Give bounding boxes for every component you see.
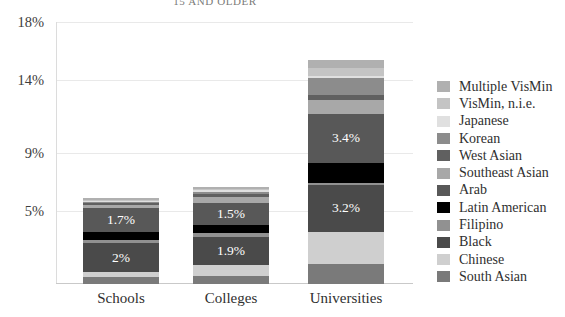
bar-segment[interactable]: [193, 276, 269, 284]
legend-item-label: Chinese: [459, 253, 504, 267]
legend-item-label: West Asian: [459, 149, 522, 163]
bar-segment[interactable]: [193, 190, 269, 191]
bar-segment[interactable]: 3.4%: [308, 114, 384, 163]
legend-item[interactable]: Black: [437, 234, 565, 251]
legend-swatch-icon: [437, 133, 450, 144]
bar-segment[interactable]: [308, 264, 384, 284]
legend-item[interactable]: Korean: [437, 130, 565, 147]
bar-segment[interactable]: [83, 277, 159, 284]
legend-swatch-icon: [437, 202, 450, 213]
legend-item-label: Multiple VisMin: [459, 80, 552, 94]
bar-segment[interactable]: [308, 95, 384, 100]
bar-segment[interactable]: 3.2%: [308, 185, 384, 232]
legend-swatch-icon: [437, 150, 450, 161]
bar-segment[interactable]: [193, 265, 269, 276]
legend-swatch-icon: [437, 168, 450, 179]
bar-segment[interactable]: [83, 232, 159, 240]
legend-item[interactable]: Latin American: [437, 199, 565, 216]
x-axis-tick-label: Colleges: [205, 290, 258, 307]
legend-item[interactable]: Arab: [437, 182, 565, 199]
legend-swatch-icon: [437, 98, 450, 109]
bar-segment[interactable]: 1.7%: [83, 208, 159, 233]
bar-segment[interactable]: [83, 200, 159, 201]
bar-segment[interactable]: [83, 205, 159, 208]
bar-segment[interactable]: [193, 197, 269, 204]
bar-segment[interactable]: [193, 189, 269, 190]
legend-item[interactable]: Chinese: [437, 251, 565, 268]
y-axis-line: [56, 22, 57, 284]
legend-swatch-icon: [437, 271, 450, 282]
gridline: [56, 22, 413, 23]
legend-swatch-icon: [437, 237, 450, 248]
bar-schools[interactable]: 2%1.7%: [83, 198, 159, 284]
bar-segment[interactable]: [83, 202, 159, 203]
bar-segment-label: 3.2%: [308, 202, 384, 216]
legend-item-label: South Asian: [459, 270, 527, 284]
legend-item-label: Southeast Asian: [459, 166, 549, 180]
legend-item-label: Filipino: [459, 218, 503, 232]
legend-item-label: Black: [459, 235, 492, 249]
bar-segment[interactable]: [83, 240, 159, 243]
legend-swatch-icon: [437, 220, 450, 231]
legend-item[interactable]: Filipino: [437, 216, 565, 233]
bar-segment[interactable]: [308, 163, 384, 183]
y-axis-tick-label: 9%: [0, 145, 44, 162]
legend-item[interactable]: South Asian: [437, 268, 565, 285]
bar-segment-label: 3.4%: [308, 132, 384, 146]
legend-item[interactable]: Multiple VisMin: [437, 78, 565, 95]
y-axis-tick-label: 14%: [0, 72, 44, 89]
bar-segment[interactable]: [193, 194, 269, 197]
legend-item-label: Japanese: [459, 114, 509, 128]
legend-item[interactable]: Southeast Asian: [437, 164, 565, 181]
legend-swatch-icon: [437, 185, 450, 196]
legend: Multiple VisMinVisMin, n.i.e.JapaneseKor…: [437, 78, 565, 286]
plot-area: 2%1.7%1.9%1.5%3.2%3.4%: [56, 22, 413, 284]
bar-segment[interactable]: [193, 187, 269, 189]
bar-segment[interactable]: [83, 203, 159, 204]
bar-segment[interactable]: [308, 100, 384, 114]
bar-segment[interactable]: 1.9%: [193, 237, 269, 265]
legend-item-label: VisMin, n.i.e.: [459, 97, 536, 111]
legend-item-label: Latin American: [459, 201, 546, 215]
chart-title: 15 AND OLDER: [0, 0, 430, 7]
bar-segment-label: 1.7%: [83, 213, 159, 227]
bar-segment[interactable]: [83, 201, 159, 202]
bar-colleges[interactable]: 1.9%1.5%: [193, 187, 269, 284]
legend-swatch-icon: [437, 254, 450, 265]
bar-segment-label: 1.9%: [193, 245, 269, 259]
legend-item-label: Korean: [459, 132, 500, 146]
legend-item[interactable]: VisMin, n.i.e.: [437, 95, 565, 112]
legend-item[interactable]: Japanese: [437, 113, 565, 130]
bar-universities[interactable]: 3.2%3.4%: [308, 60, 384, 284]
bar-segment[interactable]: 1.5%: [193, 203, 269, 225]
chart-container: 15 AND OLDER 5%9%14%18% 2%1.7%1.9%1.5%3.…: [0, 0, 565, 317]
bar-segment[interactable]: [308, 68, 384, 76]
y-axis-tick-label: 18%: [0, 14, 44, 31]
legend-item-label: Arab: [459, 183, 487, 197]
bar-segment[interactable]: [308, 232, 384, 265]
legend-swatch-icon: [437, 116, 450, 127]
bar-segment-label: 2%: [83, 251, 159, 265]
bar-segment[interactable]: [193, 225, 269, 233]
bar-segment[interactable]: [308, 76, 384, 78]
bar-segment[interactable]: [83, 198, 159, 199]
bar-segment[interactable]: [83, 272, 159, 277]
legend-swatch-icon: [437, 81, 450, 92]
bar-segment[interactable]: [193, 192, 269, 194]
y-axis-tick-label: 5%: [0, 203, 44, 220]
x-axis-tick-label: Universities: [310, 290, 383, 307]
bar-segment[interactable]: 2%: [83, 243, 159, 272]
bar-segment[interactable]: [193, 233, 269, 237]
bar-segment-label: 1.5%: [193, 207, 269, 221]
bar-segment[interactable]: [308, 60, 384, 68]
x-axis-tick-label: Schools: [97, 290, 145, 307]
bar-segment[interactable]: [308, 183, 384, 185]
bar-segment[interactable]: [308, 78, 384, 95]
legend-item[interactable]: West Asian: [437, 147, 565, 164]
